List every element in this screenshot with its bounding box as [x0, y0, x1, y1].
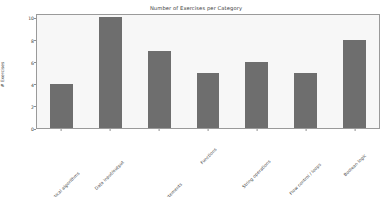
bar[interactable]	[197, 73, 220, 128]
x-tick-label: Boolean logic	[343, 153, 367, 177]
y-tick-label: 8	[22, 38, 34, 43]
bar-slot	[135, 15, 184, 128]
y-tick-label: 6	[22, 60, 34, 65]
chart-title: Number of Exercises per Category	[0, 5, 392, 11]
bar[interactable]	[50, 84, 73, 128]
bar-slot	[37, 15, 86, 128]
y-tick-label: 4	[22, 82, 34, 87]
bars-layer	[37, 15, 379, 128]
x-tick-label: String operations	[241, 159, 271, 189]
bar-slot	[184, 15, 233, 128]
x-tick-label: Flow control / If-else statements	[130, 182, 183, 197]
bar[interactable]	[148, 51, 171, 128]
bar-slot	[86, 15, 135, 128]
bar-chart-figure: Number of Exercises per Category # Exerc…	[0, 0, 392, 197]
bar-slot	[330, 15, 379, 128]
x-axis-labels: Mathematical algorithmsData input/output…	[36, 132, 380, 194]
y-tick-label: 2	[22, 104, 34, 109]
bar[interactable]	[99, 17, 122, 128]
x-tick-label: Flow control / loops	[289, 162, 323, 196]
x-tick-label: Mathematical algorithms	[38, 171, 80, 197]
bar-slot	[232, 15, 281, 128]
y-tick-label: 10	[22, 16, 34, 21]
x-tick-label: Data input/output	[93, 160, 124, 191]
bar[interactable]	[343, 40, 366, 128]
y-tick-label: 0	[22, 127, 34, 132]
plot-area	[36, 14, 380, 129]
x-tick-label: Functions	[199, 147, 217, 165]
bar[interactable]	[294, 73, 317, 128]
bar[interactable]	[245, 62, 268, 128]
bar-slot	[281, 15, 330, 128]
